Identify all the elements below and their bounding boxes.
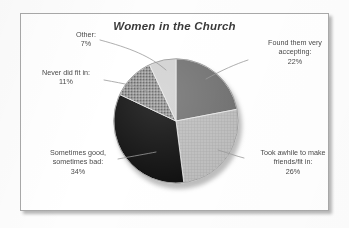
- slice-label-took-awhile: Took awhile to make friends/fit in: 26%: [246, 148, 340, 176]
- chart-page: Women in the Church: [0, 0, 349, 228]
- page-title: Women in the Church: [0, 20, 349, 32]
- slice-label-found-them-very-accepting: Found them very accepting: 22%: [252, 38, 338, 66]
- slice-label-took-text-2: friends/fit in:: [246, 157, 340, 166]
- slice-label-took-value: 26%: [246, 167, 340, 176]
- slice-label-sometimes-value: 34%: [32, 167, 124, 176]
- slice-label-took-text-1: Took awhile to make: [246, 148, 340, 157]
- slice-label-found-text-1: Found them very: [252, 38, 338, 47]
- slice-label-other-value: 7%: [62, 39, 110, 48]
- pie-chart: [113, 58, 239, 184]
- slice-label-sometimes-text-2: sometimes bad:: [32, 157, 124, 166]
- slice-label-never-did-fit-in: Never did fit in: 11%: [22, 68, 110, 87]
- slice-label-other-text: Other:: [62, 30, 110, 39]
- slice-label-found-value: 22%: [252, 57, 338, 66]
- slice-label-found-text-2: accepting:: [252, 47, 338, 56]
- slice-label-sometimes-good-sometimes-bad: Sometimes good, sometimes bad: 34%: [32, 148, 124, 176]
- pie-outline: [114, 59, 238, 183]
- pie-svg: [113, 58, 239, 184]
- slice-label-sometimes-text-1: Sometimes good,: [32, 148, 124, 157]
- slice-label-never-value: 11%: [22, 77, 110, 86]
- slice-label-never-text: Never did fit in:: [22, 68, 110, 77]
- slice-label-other: Other: 7%: [62, 30, 110, 49]
